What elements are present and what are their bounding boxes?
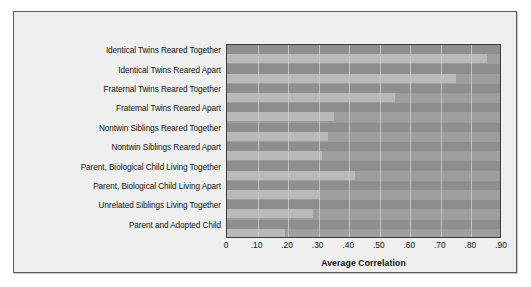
gridline bbox=[349, 45, 350, 237]
category-label: Parent, Biological Child Living Apart bbox=[93, 177, 221, 196]
category-label: Fraternal Twins Reared Together bbox=[104, 80, 221, 99]
x-tick-label: .50 bbox=[373, 240, 385, 250]
bar bbox=[227, 171, 355, 180]
row-band bbox=[227, 123, 500, 132]
x-tick-label: .70 bbox=[434, 240, 446, 250]
row-band bbox=[227, 84, 500, 93]
x-axis-tick-labels: 0.10.20.30.40.50.60.70.80.90 bbox=[226, 240, 501, 254]
category-label: Nontwin Siblings Reared Apart bbox=[111, 138, 221, 157]
x-tick-label: 0 bbox=[224, 240, 229, 250]
bar bbox=[227, 132, 328, 141]
category-label: Identical Twins Reared Apart bbox=[118, 61, 221, 80]
chart-card-frame: Identical Twins Reared TogetherIdentical… bbox=[13, 11, 517, 273]
row-band bbox=[227, 103, 500, 112]
row-band bbox=[227, 142, 500, 151]
category-label: Nontwin Siblings Reared Together bbox=[99, 119, 221, 138]
x-tick-label: .20 bbox=[281, 240, 293, 250]
bar bbox=[227, 209, 313, 218]
x-tick-label: .40 bbox=[342, 240, 354, 250]
row-band bbox=[227, 161, 500, 170]
x-axis-title: Average Correlation bbox=[226, 258, 501, 268]
x-tick-label: .80 bbox=[465, 240, 477, 250]
gridline bbox=[319, 45, 320, 237]
category-label: Parent, Biological Child Living Together bbox=[81, 158, 221, 177]
category-label: Identical Twins Reared Together bbox=[106, 41, 221, 60]
x-tick-label: .30 bbox=[312, 240, 324, 250]
gridline bbox=[441, 45, 442, 237]
plot-area bbox=[226, 44, 501, 238]
bar bbox=[227, 54, 487, 63]
gridline bbox=[380, 45, 381, 237]
bar bbox=[227, 151, 322, 160]
row-band bbox=[227, 220, 500, 229]
row-band bbox=[227, 64, 500, 73]
category-label: Parent and Adopted Child bbox=[129, 216, 221, 235]
category-axis-labels: Identical Twins Reared TogetherIdentical… bbox=[36, 33, 221, 227]
row-band bbox=[227, 200, 500, 209]
x-tick-label: .10 bbox=[251, 240, 263, 250]
gridline bbox=[288, 45, 289, 237]
category-label: Unrelated Siblings Living Together bbox=[99, 196, 221, 215]
row-band bbox=[227, 45, 500, 54]
gridline bbox=[471, 45, 472, 237]
bar bbox=[227, 190, 319, 199]
x-tick-label: .60 bbox=[404, 240, 416, 250]
chart-figure: Identical Twins Reared TogetherIdentical… bbox=[0, 0, 531, 287]
row-band bbox=[227, 181, 500, 190]
x-tick-label: .90 bbox=[495, 240, 507, 250]
bar bbox=[227, 229, 285, 238]
gridline bbox=[258, 45, 259, 237]
plot-inner bbox=[227, 45, 500, 237]
bar bbox=[227, 93, 395, 102]
category-label: Fraternal Twins Reared Apart bbox=[116, 99, 221, 118]
gridline bbox=[410, 45, 411, 237]
bar bbox=[227, 74, 456, 83]
